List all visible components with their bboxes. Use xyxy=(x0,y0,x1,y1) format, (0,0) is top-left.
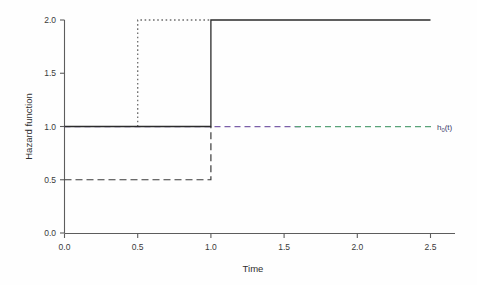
x-tick-label-5: 2.5 xyxy=(425,242,437,252)
y-tick-label-4: 2.0 xyxy=(44,15,56,25)
x-axis-title: Time xyxy=(243,263,264,274)
y-tick-label-1: 0.5 xyxy=(44,175,56,185)
y-axis-title: Hazard function xyxy=(23,93,34,160)
x-tick-label-4: 2.0 xyxy=(351,242,363,252)
chart-figure: 0.0 0.5 1.0 1.5 2.0 0.0 0.5 1.0 1.5 xyxy=(0,0,477,285)
chart-background xyxy=(0,0,477,285)
y-tick-label-0: 0.0 xyxy=(44,228,56,238)
y-tick-label-3: 1.5 xyxy=(44,68,56,78)
baseline-hazard-label-text: h0(t) xyxy=(437,123,453,133)
x-tick-label-3: 1.5 xyxy=(278,242,290,252)
x-tick-label-2: 1.0 xyxy=(205,242,217,252)
x-tick-label-0: 0.0 xyxy=(59,242,71,252)
x-tick-label-1: 0.5 xyxy=(132,242,144,252)
hazard-function-chart: 0.0 0.5 1.0 1.5 2.0 0.0 0.5 1.0 1.5 xyxy=(0,0,477,285)
baseline-label-tail: (t) xyxy=(445,123,453,132)
y-tick-label-2: 1.0 xyxy=(44,122,56,132)
baseline-hazard-label: h0(t) xyxy=(437,123,453,133)
